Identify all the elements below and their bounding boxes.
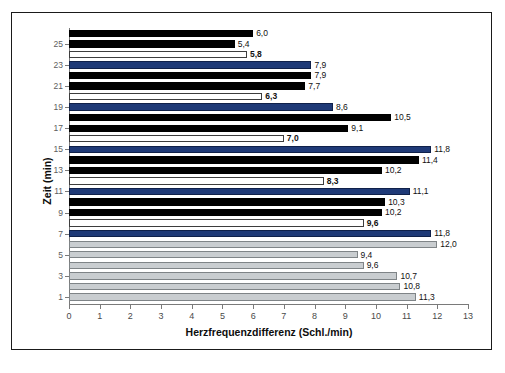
x-tick-label: 11 <box>402 311 411 321</box>
bar-row: 10,5 <box>69 112 468 123</box>
bar[interactable] <box>69 230 431 237</box>
x-tick-label: 9 <box>343 311 348 321</box>
bar-value-label: 11,3 <box>419 293 435 302</box>
y-tick-mark <box>65 107 69 108</box>
bar-value-label: 11,1 <box>413 187 429 196</box>
bar-row: 7,923 <box>69 60 468 71</box>
y-tick-label: 13 <box>54 165 63 175</box>
bar-row: 10,29 <box>69 207 468 218</box>
bar[interactable] <box>69 167 382 174</box>
bar[interactable] <box>69 262 364 269</box>
y-tick-mark <box>65 213 69 214</box>
bar-value-label: 7,0 <box>287 134 299 143</box>
y-tick-mark <box>65 128 69 129</box>
bar[interactable] <box>69 61 311 68</box>
bar[interactable] <box>69 177 324 184</box>
bar-value-label: 12,0 <box>440 240 457 249</box>
x-tick-mark <box>407 305 408 309</box>
bar-value-label: 7,9 <box>314 71 326 80</box>
y-tick-mark <box>65 191 69 192</box>
bar-value-label: 6,0 <box>256 29 268 38</box>
y-tick-label: 7 <box>58 229 63 239</box>
bar-row: 9,117 <box>69 123 468 134</box>
x-tick-mark <box>468 305 469 309</box>
y-tick-label: 19 <box>54 102 63 112</box>
bar-value-label: 11,4 <box>422 156 438 165</box>
x-tick-label: 8 <box>312 311 317 321</box>
bar-row: 11,815 <box>69 144 468 155</box>
bar-row: 12,0 <box>69 239 468 250</box>
x-tick-label: 13 <box>463 311 473 321</box>
x-tick-mark <box>376 305 377 309</box>
plot-area: 6,05,4255,87,9237,97,7216,38,61910,59,11… <box>69 28 468 303</box>
bar-value-label: 10,7 <box>400 272 417 281</box>
bar[interactable] <box>69 188 410 195</box>
bar[interactable] <box>69 40 235 47</box>
bar-value-label: 10,8 <box>403 282 420 291</box>
bar[interactable] <box>69 241 437 248</box>
x-tick-label: 3 <box>159 311 164 321</box>
bar-value-label: 9,6 <box>367 261 379 270</box>
bar[interactable] <box>69 198 385 205</box>
bar-value-label: 10,5 <box>394 113 411 122</box>
bar-value-label: 6,3 <box>265 92 277 101</box>
bar[interactable] <box>69 219 364 226</box>
bar[interactable] <box>69 135 284 142</box>
bar-value-label: 11,8 <box>434 145 450 154</box>
bar[interactable] <box>69 283 400 290</box>
x-tick-label: 1 <box>97 311 102 321</box>
bar[interactable] <box>69 125 348 132</box>
x-tick-mark <box>253 305 254 309</box>
bar-row: 7,0 <box>69 133 468 144</box>
bar-value-label: 5,8 <box>250 50 262 59</box>
x-tick-label: 0 <box>66 311 71 321</box>
bar[interactable] <box>69 103 333 110</box>
x-tick-mark <box>161 305 162 309</box>
x-tick-mark <box>130 305 131 309</box>
bar-row: 5,8 <box>69 49 468 60</box>
x-tick-label: 2 <box>128 311 133 321</box>
bar-value-label: 11,8 <box>434 229 450 238</box>
y-tick-label: 3 <box>58 271 63 281</box>
bar[interactable] <box>69 30 253 37</box>
x-tick-label: 5 <box>220 311 225 321</box>
x-tick-label: 10 <box>371 311 381 321</box>
bar[interactable] <box>69 93 262 100</box>
y-tick-label: 25 <box>54 39 63 49</box>
y-tick-mark <box>65 255 69 256</box>
bar[interactable] <box>69 146 431 153</box>
bar[interactable] <box>69 51 247 58</box>
x-tick-label: 6 <box>251 311 256 321</box>
y-tick-label: 1 <box>58 292 63 302</box>
bar-row: 10,73 <box>69 271 468 282</box>
bar-value-label: 9,4 <box>361 251 373 260</box>
y-tick-label: 5 <box>58 250 63 260</box>
x-tick-label: 12 <box>432 311 442 321</box>
y-tick-mark <box>65 297 69 298</box>
bar-row: 11,4 <box>69 155 468 166</box>
x-tick-mark <box>284 305 285 309</box>
bar-row: 8,619 <box>69 102 468 113</box>
x-tick-mark <box>192 305 193 309</box>
y-tick-label: 21 <box>54 81 63 91</box>
bar-row: 9,6 <box>69 218 468 229</box>
bar[interactable] <box>69 293 416 300</box>
y-tick-mark <box>65 65 69 66</box>
bar-row: 7,721 <box>69 81 468 92</box>
bar[interactable] <box>69 272 397 279</box>
bar[interactable] <box>69 209 382 216</box>
bar[interactable] <box>69 156 419 163</box>
bar[interactable] <box>69 72 311 79</box>
x-tick-label: 7 <box>281 311 286 321</box>
bar[interactable] <box>69 114 391 121</box>
bar[interactable] <box>69 82 305 89</box>
bar-row: 7,9 <box>69 70 468 81</box>
bar-value-label: 8,6 <box>336 103 348 112</box>
bar[interactable] <box>69 251 358 258</box>
x-tick-mark <box>315 305 316 309</box>
bar-value-label: 8,3 <box>327 177 339 186</box>
chart-frame: Zeit (min) 6,05,4255,87,9237,97,7216,38,… <box>11 12 492 350</box>
bar-row: 5,425 <box>69 39 468 50</box>
bar-row: 8,3 <box>69 176 468 187</box>
x-tick-mark <box>345 305 346 309</box>
